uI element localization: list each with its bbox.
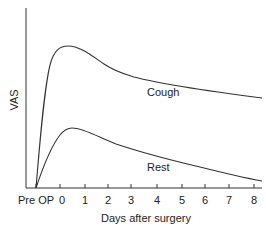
rest-label: Rest [147, 161, 170, 173]
x-tick-label: 7 [226, 194, 232, 206]
x-tick-label: 1 [82, 194, 88, 206]
rest-curve [36, 128, 262, 188]
vas-chart: Pre OP 0 1 2 3 4 5 6 7 8 Days after surg… [0, 0, 266, 232]
x-ticks [36, 184, 254, 188]
x-tick-label: 2 [105, 194, 111, 206]
cough-label: Cough [147, 86, 179, 98]
x-tick-label: 4 [154, 194, 160, 206]
x-tick-label: 3 [128, 194, 134, 206]
x-tick-label: 8 [251, 194, 257, 206]
x-tick-label: 6 [202, 194, 208, 206]
x-axis-title: Days after surgery [101, 212, 191, 224]
x-tick-label: 5 [179, 194, 185, 206]
x-tick-label: 0 [59, 194, 65, 206]
x-tick-label: Pre OP [18, 194, 54, 206]
y-axis-title: VAS [8, 89, 20, 110]
